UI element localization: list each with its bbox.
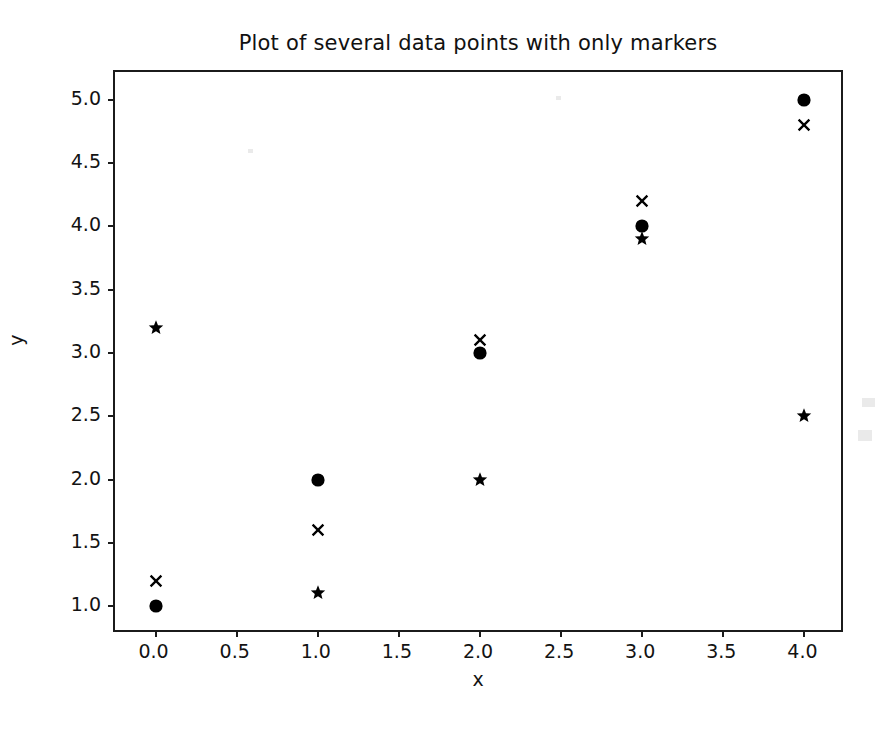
data-point-cross [148,573,164,589]
y-tick-label: 3.0 [71,340,101,362]
scan-artifact [248,149,253,153]
data-point-star [147,319,164,336]
data-point-circle [310,472,326,488]
scan-artifact [862,398,875,407]
x-tick-label: 1.5 [382,640,412,662]
y-tick-label: 5.0 [71,87,101,109]
x-tick-label: 3.0 [625,640,655,662]
y-tick-label: 4.5 [71,150,101,172]
y-tick-label: 2.5 [71,403,101,425]
x-tick-label: 4.0 [787,640,817,662]
x-tick-label: 0.5 [220,640,250,662]
data-markers-layer [115,72,841,630]
y-tick-label: 2.0 [71,467,101,489]
data-point-circle [148,598,164,614]
x-tick-label: 1.0 [301,640,331,662]
y-tick-label: 4.0 [71,213,101,235]
y-tick-label: 1.5 [71,530,101,552]
x-axis-label: x [113,668,843,690]
data-point-star [796,408,813,425]
data-point-cross [472,332,488,348]
x-tick-label: 2.0 [463,640,493,662]
x-tick-label: 3.5 [706,640,736,662]
scan-artifact [858,430,872,441]
y-axis-tick-labels: 1.01.52.02.53.03.54.04.55.0 [0,70,113,632]
data-point-cross [796,117,812,133]
chart-title: Plot of several data points with only ma… [113,30,843,56]
data-point-star [472,471,489,488]
x-tick-label: 2.5 [544,640,574,662]
data-point-star [634,231,651,248]
y-axis-label: y [5,334,27,345]
figure-canvas: Plot of several data points with only ma… [0,0,891,735]
y-tick-label: 3.5 [71,277,101,299]
x-tick-label: 0.0 [138,640,168,662]
data-point-star [309,585,326,602]
data-point-circle [796,92,812,108]
data-point-cross [634,193,650,209]
data-point-cross [310,522,326,538]
plot-area [113,70,843,632]
scan-artifact [556,96,561,100]
y-tick-label: 1.0 [71,593,101,615]
x-axis-tick-labels: 0.00.51.01.52.02.53.03.54.0 [113,632,843,666]
